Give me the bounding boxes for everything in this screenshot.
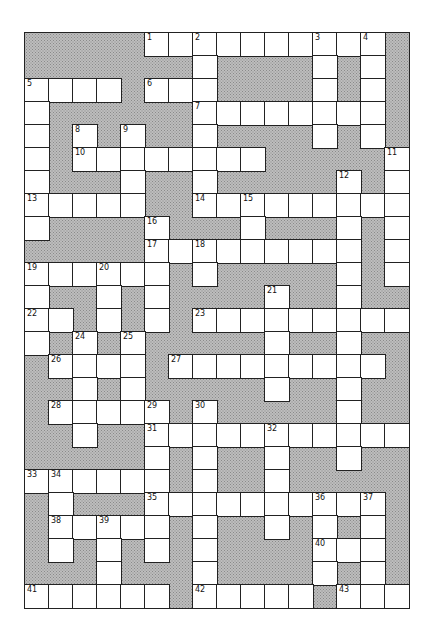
crossword-cell[interactable]: [97, 562, 121, 585]
crossword-cell[interactable]: [121, 470, 145, 493]
crossword-cell[interactable]: [145, 539, 169, 562]
crossword-cell[interactable]: [361, 516, 385, 539]
crossword-cell[interactable]: [73, 585, 97, 608]
crossword-cell[interactable]: [73, 355, 97, 378]
crossword-cell[interactable]: [361, 309, 385, 332]
crossword-cell[interactable]: [265, 240, 289, 263]
crossword-cell[interactable]: 25: [121, 332, 145, 355]
crossword-cell[interactable]: 35: [145, 493, 169, 516]
crossword-cell[interactable]: [193, 125, 217, 148]
crossword-cell[interactable]: [145, 263, 169, 286]
crossword-cell[interactable]: [25, 286, 49, 309]
crossword-cell[interactable]: [289, 309, 313, 332]
crossword-cell[interactable]: [217, 493, 241, 516]
crossword-cell[interactable]: [169, 424, 193, 447]
crossword-cell[interactable]: [193, 516, 217, 539]
crossword-cell[interactable]: [361, 56, 385, 79]
crossword-cell[interactable]: [361, 355, 385, 378]
crossword-cell[interactable]: [121, 585, 145, 608]
crossword-cell[interactable]: [73, 194, 97, 217]
crossword-cell[interactable]: 18: [193, 240, 217, 263]
crossword-cell[interactable]: [265, 378, 289, 401]
crossword-cell[interactable]: [265, 355, 289, 378]
crossword-cell[interactable]: [265, 516, 289, 539]
crossword-cell[interactable]: [361, 194, 385, 217]
crossword-cell[interactable]: [385, 171, 409, 194]
crossword-cell[interactable]: [217, 194, 241, 217]
crossword-cell[interactable]: [121, 401, 145, 424]
crossword-cell[interactable]: [289, 194, 313, 217]
crossword-cell[interactable]: [121, 263, 145, 286]
crossword-cell[interactable]: 2: [193, 33, 217, 56]
crossword-cell[interactable]: [361, 562, 385, 585]
crossword-cell[interactable]: 22: [25, 309, 49, 332]
crossword-cell[interactable]: 11: [385, 148, 409, 171]
crossword-cell[interactable]: [193, 447, 217, 470]
crossword-cell[interactable]: [313, 102, 337, 125]
crossword-cell[interactable]: [361, 539, 385, 562]
crossword-cell[interactable]: [289, 493, 313, 516]
crossword-cell[interactable]: 30: [193, 401, 217, 424]
crossword-cell[interactable]: [121, 378, 145, 401]
crossword-cell[interactable]: [241, 355, 265, 378]
crossword-cell[interactable]: 17: [145, 240, 169, 263]
crossword-cell[interactable]: 37: [361, 493, 385, 516]
crossword-cell[interactable]: [241, 102, 265, 125]
crossword-cell[interactable]: [385, 585, 409, 608]
crossword-cell[interactable]: [385, 424, 409, 447]
crossword-cell[interactable]: [49, 539, 73, 562]
crossword-cell[interactable]: [97, 194, 121, 217]
crossword-cell[interactable]: 38: [49, 516, 73, 539]
crossword-cell[interactable]: 29: [145, 401, 169, 424]
crossword-cell[interactable]: [97, 309, 121, 332]
crossword-cell[interactable]: [217, 355, 241, 378]
crossword-cell[interactable]: [145, 516, 169, 539]
crossword-cell[interactable]: [313, 424, 337, 447]
crossword-cell[interactable]: [337, 33, 361, 56]
crossword-cell[interactable]: [337, 286, 361, 309]
crossword-cell[interactable]: [169, 493, 193, 516]
crossword-cell[interactable]: [337, 539, 361, 562]
crossword-cell[interactable]: 8: [73, 125, 97, 148]
crossword-cell[interactable]: [217, 309, 241, 332]
crossword-cell[interactable]: [313, 56, 337, 79]
crossword-cell[interactable]: 15: [241, 194, 265, 217]
crossword-cell[interactable]: [73, 424, 97, 447]
crossword-cell[interactable]: [217, 585, 241, 608]
crossword-cell[interactable]: 41: [25, 585, 49, 608]
crossword-cell[interactable]: [385, 309, 409, 332]
crossword-cell[interactable]: [169, 148, 193, 171]
crossword-cell[interactable]: [73, 263, 97, 286]
crossword-cell[interactable]: [97, 286, 121, 309]
crossword-cell[interactable]: [265, 309, 289, 332]
crossword-cell[interactable]: 40: [313, 539, 337, 562]
crossword-cell[interactable]: [361, 125, 385, 148]
crossword-cell[interactable]: [361, 79, 385, 102]
crossword-cell[interactable]: [337, 194, 361, 217]
crossword-cell[interactable]: 43: [337, 585, 361, 608]
crossword-cell[interactable]: [193, 263, 217, 286]
crossword-cell[interactable]: [73, 79, 97, 102]
crossword-cell[interactable]: 31: [145, 424, 169, 447]
crossword-cell[interactable]: 19: [25, 263, 49, 286]
crossword-cell[interactable]: [193, 493, 217, 516]
crossword-cell[interactable]: [361, 585, 385, 608]
crossword-cell[interactable]: 7: [193, 102, 217, 125]
crossword-cell[interactable]: [25, 217, 49, 240]
crossword-cell[interactable]: [97, 539, 121, 562]
crossword-cell[interactable]: 14: [193, 194, 217, 217]
crossword-cell[interactable]: [193, 470, 217, 493]
crossword-cell[interactable]: [313, 194, 337, 217]
crossword-cell[interactable]: [313, 355, 337, 378]
crossword-cell[interactable]: [337, 447, 361, 470]
crossword-cell[interactable]: [145, 470, 169, 493]
crossword-cell[interactable]: 9: [121, 125, 145, 148]
crossword-cell[interactable]: 6: [145, 79, 169, 102]
crossword-cell[interactable]: [97, 79, 121, 102]
crossword-cell[interactable]: [289, 240, 313, 263]
crossword-cell[interactable]: [289, 585, 313, 608]
crossword-cell[interactable]: [241, 33, 265, 56]
crossword-cell[interactable]: 34: [49, 470, 73, 493]
crossword-cell[interactable]: [49, 194, 73, 217]
crossword-cell[interactable]: [337, 493, 361, 516]
